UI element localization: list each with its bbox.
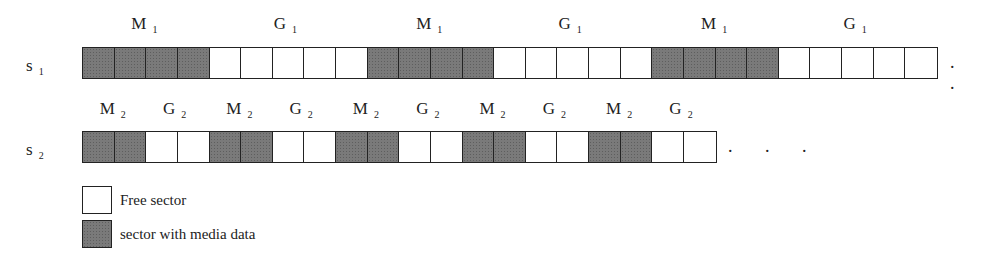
free-sector-cell xyxy=(842,48,874,78)
free-sector-cell xyxy=(273,132,305,162)
free-sector-cell xyxy=(273,48,305,78)
free-sector-cell xyxy=(241,48,273,78)
free-sector-cell xyxy=(336,48,368,78)
media-sector-cell xyxy=(399,48,431,78)
sector-track-s2 xyxy=(82,131,717,163)
media-sector-cell xyxy=(621,132,653,162)
media-sector-cell xyxy=(178,48,210,78)
free-sector-swatch xyxy=(82,186,112,214)
segment-label-g2: G2 xyxy=(543,99,566,120)
media-sector-cell xyxy=(83,48,115,78)
free-sector-cell xyxy=(589,48,621,78)
media-sector-cell xyxy=(336,132,368,162)
media-sector-swatch xyxy=(82,220,112,248)
segment-label-m2: M2 xyxy=(479,99,505,120)
free-sector-cell xyxy=(431,132,463,162)
media-sector-cell xyxy=(210,132,242,162)
free-sector-cell xyxy=(526,132,558,162)
segment-label-m1: M1 xyxy=(701,14,727,35)
row-label-text: s xyxy=(26,56,33,75)
segment-label-g2: G2 xyxy=(416,99,439,120)
segment-label-m2: M2 xyxy=(606,99,632,120)
legend: Free sector sector with media data xyxy=(82,185,255,249)
free-sector-cell xyxy=(557,48,589,78)
free-sector-cell xyxy=(810,48,842,78)
free-sector-cell xyxy=(399,132,431,162)
free-sector-cell xyxy=(210,48,242,78)
legend-label-media: sector with media data xyxy=(120,226,255,243)
segment-label-m2: M2 xyxy=(226,99,252,120)
free-sector-cell xyxy=(621,48,653,78)
free-sector-cell xyxy=(304,48,336,78)
segment-label-m1: M1 xyxy=(416,14,442,35)
sector-track-s1 xyxy=(82,47,938,79)
segment-label-m2: M2 xyxy=(353,99,379,120)
row-label-s2: s2 xyxy=(26,140,44,161)
segment-label-g1: G1 xyxy=(274,14,297,35)
free-sector-cell xyxy=(526,48,558,78)
free-sector-cell xyxy=(178,132,210,162)
media-sector-cell xyxy=(431,48,463,78)
media-sector-cell xyxy=(115,132,147,162)
media-sector-cell xyxy=(589,132,621,162)
free-sector-cell xyxy=(557,132,589,162)
segment-label-g1: G1 xyxy=(843,14,866,35)
legend-item-media: sector with media data xyxy=(82,219,255,249)
free-sector-cell xyxy=(304,132,336,162)
media-sector-cell xyxy=(652,48,684,78)
row-label-sub: 1 xyxy=(39,66,44,77)
media-sector-cell xyxy=(146,48,178,78)
media-sector-cell xyxy=(368,132,400,162)
row-label-text: s xyxy=(26,140,33,159)
ellipsis-s2: . . . xyxy=(728,136,821,157)
segment-label-g2: G2 xyxy=(669,99,692,120)
free-sector-cell xyxy=(494,48,526,78)
segment-label-g2: G2 xyxy=(163,99,186,120)
legend-label-free: Free sector xyxy=(120,192,186,209)
legend-item-free: Free sector xyxy=(82,185,255,215)
media-sector-cell xyxy=(684,48,716,78)
free-sector-cell xyxy=(779,48,811,78)
media-sector-cell xyxy=(494,132,526,162)
segment-label-g2: G2 xyxy=(290,99,313,120)
segment-label-m2: M2 xyxy=(100,99,126,120)
media-sector-cell xyxy=(716,48,748,78)
free-sector-cell xyxy=(874,48,906,78)
media-sector-cell xyxy=(747,48,779,78)
media-sector-cell xyxy=(241,132,273,162)
media-sector-cell xyxy=(463,48,495,78)
media-sector-cell xyxy=(83,132,115,162)
segment-label-g1: G1 xyxy=(559,14,582,35)
row-label-sub: 2 xyxy=(39,150,44,161)
free-sector-cell xyxy=(652,132,684,162)
free-sector-cell xyxy=(146,132,178,162)
free-sector-cell xyxy=(684,132,716,162)
media-sector-cell xyxy=(115,48,147,78)
free-sector-cell xyxy=(905,48,937,78)
row-label-s1: s1 xyxy=(26,56,44,77)
media-sector-cell xyxy=(463,132,495,162)
segment-label-m1: M1 xyxy=(131,14,157,35)
media-sector-cell xyxy=(368,48,400,78)
ellipsis-s1: . . xyxy=(950,52,1000,94)
